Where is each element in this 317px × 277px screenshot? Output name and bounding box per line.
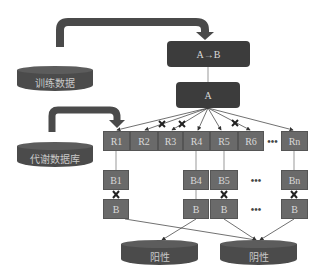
- mismatch-marks: [113, 191, 297, 198]
- diagram-canvas: 训练数据 代谢数据库 阳性 阴性 A→B A R1 R2 R3 R4 R5 R6…: [0, 0, 317, 277]
- metabolic-db-cylinder: 代谢数据库: [17, 142, 93, 167]
- b-target-box: B: [103, 199, 129, 219]
- training-data-cylinder: 训练数据: [17, 66, 93, 91]
- b-target-box: B: [183, 199, 209, 219]
- x-mark-icon: [113, 191, 119, 198]
- positive-cylinder: 阳性: [121, 240, 198, 265]
- b-target-box: B: [281, 199, 308, 219]
- b-box: Bn: [281, 170, 308, 190]
- negative-cylinder: 阴性: [220, 240, 297, 265]
- r-box: R6: [238, 131, 264, 151]
- b-box: B1: [103, 170, 129, 190]
- b-target-box: B: [210, 199, 238, 219]
- metabolic-db-label: 代谢数据库: [17, 151, 93, 166]
- rule-box: A→B: [167, 41, 250, 67]
- r-box: R3: [158, 131, 183, 151]
- r-box: R1: [103, 131, 130, 151]
- b-target-ellipsis: •••: [246, 199, 266, 219]
- r-box: R2: [130, 131, 158, 151]
- b-box: B4: [183, 170, 209, 190]
- x-mark-icon: [221, 191, 227, 198]
- b-ellipsis: •••: [246, 170, 266, 190]
- r-box: R5: [210, 131, 238, 151]
- negative-label: 阴性: [220, 249, 297, 264]
- metabolic-flow-arrow: [52, 110, 125, 132]
- r-box: R4: [183, 131, 210, 151]
- b-box: B5: [210, 170, 238, 190]
- antecedent-box: A: [176, 82, 240, 108]
- training-data-label: 训练数据: [17, 75, 93, 90]
- positive-label: 阳性: [121, 249, 198, 264]
- x-mark-icon: [179, 121, 185, 127]
- outcome-connectors: [125, 219, 294, 240]
- r-box: Rn: [281, 131, 308, 151]
- x-mark-icon: [159, 121, 165, 127]
- antecedent-fanout: [117, 108, 293, 130]
- r-ellipsis: •••: [264, 131, 281, 151]
- x-mark-icon: [291, 191, 297, 198]
